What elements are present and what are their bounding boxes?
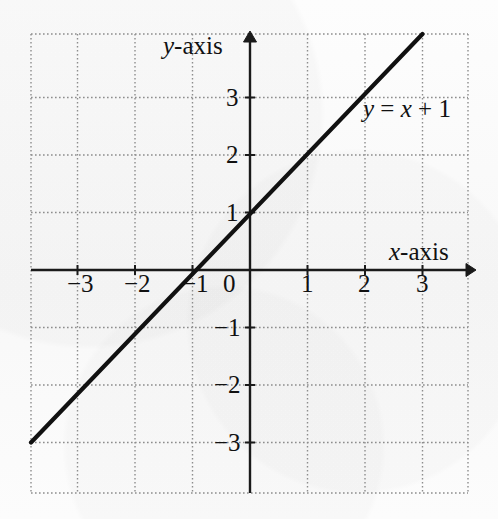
y-tick-label-1: 1	[226, 200, 239, 225]
x-tick-label-1: 1	[301, 271, 314, 296]
y-axis-label-suffix: -axis	[174, 32, 223, 59]
y-axis-label-var: y	[163, 32, 174, 59]
y-tick-label-2: 2	[226, 142, 239, 167]
equation-lhs: y	[363, 95, 374, 122]
y-tick-label--1: −1	[214, 315, 241, 340]
x-tick-label-3: 3	[416, 271, 429, 296]
equation-constant: 1	[438, 95, 451, 122]
equation-rhs-var: x	[401, 95, 412, 122]
origin-label: 0	[223, 271, 236, 296]
x-tick-label--1: −1	[182, 271, 209, 296]
x-axis-label: x-axis	[389, 239, 449, 264]
x-axis-label-suffix: -axis	[400, 238, 449, 265]
equation-sign: =	[380, 95, 394, 122]
x-axis-label-var: x	[389, 238, 400, 265]
linear-graph-figure: y-axis x-axis y = x + 1 0 −3 −2 −1 1 2 3…	[0, 0, 498, 519]
equation-operator: +	[418, 95, 432, 122]
y-tick-label-3: 3	[226, 85, 239, 110]
y-tick-label--2: −2	[214, 372, 241, 397]
x-tick-label-2: 2	[358, 271, 371, 296]
y-axis-arrowhead	[244, 31, 257, 42]
y-axis-label: y-axis	[163, 33, 223, 58]
x-tick-label--2: −2	[124, 271, 151, 296]
x-axis-arrowhead	[466, 264, 476, 277]
x-tick-label--3: −3	[67, 271, 94, 296]
equation-annotation: y = x + 1	[363, 96, 451, 121]
y-tick-label--3: −3	[214, 430, 241, 455]
